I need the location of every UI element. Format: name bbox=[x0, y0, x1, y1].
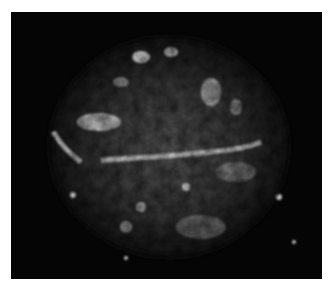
nebula-image bbox=[11, 12, 322, 279]
nebula-illustration bbox=[11, 12, 322, 279]
